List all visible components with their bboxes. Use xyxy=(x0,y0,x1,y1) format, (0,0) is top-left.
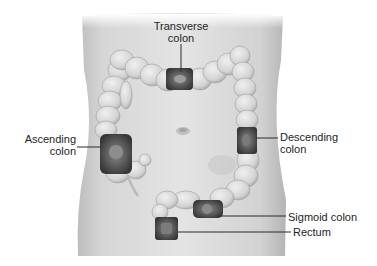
label-rectum: Rectum xyxy=(293,226,331,238)
label-sigmoid-colon: Sigmoid colon xyxy=(288,211,357,223)
label-ascending-colon: Ascending colon xyxy=(6,133,76,157)
label-transverse-colon: Transverse colon xyxy=(150,20,212,44)
label-descending-colon: Descending colon xyxy=(280,131,338,155)
colon-anatomy-diagram: Transverse colon Ascending colon Descend… xyxy=(0,0,377,266)
